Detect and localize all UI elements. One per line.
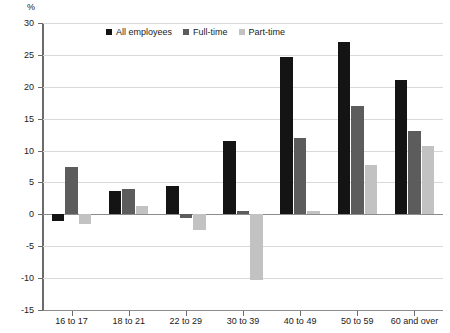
gridline--5: [43, 246, 443, 247]
gridline-0: [43, 214, 443, 215]
x-axis-category-label: 16 to 17: [43, 316, 100, 327]
y-tick-label: 25: [0, 51, 34, 60]
x-axis-category-label: 50 to 59: [329, 316, 386, 327]
y-tick-label: 20: [0, 83, 34, 92]
y-tick-label: 30: [0, 19, 34, 28]
x-axis-category-label: 22 to 29: [157, 316, 214, 327]
bar: [338, 42, 351, 214]
gridline-20: [43, 87, 443, 88]
gridline-30: [43, 23, 443, 24]
y-tick-label: 15: [0, 115, 34, 124]
bar: [294, 138, 307, 215]
bar: [237, 211, 250, 214]
y-tick-label: 0: [0, 210, 34, 219]
x-axis-category-label: 60 and over: [386, 316, 443, 327]
gridline-10: [43, 151, 443, 152]
x-axis-category-label: 18 to 21: [100, 316, 157, 327]
bar: [351, 106, 364, 214]
bar: [52, 214, 65, 220]
bar: [395, 80, 408, 214]
bar: [280, 57, 293, 215]
bar: [65, 167, 78, 215]
gridline-5: [43, 182, 443, 183]
bar: [180, 214, 193, 217]
x-axis-category-label: 30 to 39: [214, 316, 271, 327]
bar: [193, 214, 206, 230]
bar: [136, 206, 149, 214]
plot-area: [43, 23, 443, 310]
bar: [223, 141, 236, 214]
bar: [166, 186, 179, 214]
bar: [365, 165, 378, 215]
bar: [109, 191, 122, 215]
bar: [79, 214, 92, 224]
bar: [408, 131, 421, 214]
bar: [422, 146, 435, 214]
bar: [307, 211, 320, 215]
y-tick-label: 10: [0, 147, 34, 156]
gridline-25: [43, 55, 443, 56]
bar: [250, 214, 263, 280]
y-tick-label: 5: [0, 178, 34, 187]
y-tick-label: -10: [0, 274, 34, 283]
gridline-15: [43, 119, 443, 120]
y-tick-label: -5: [0, 242, 34, 251]
y-axis-unit-label: %: [27, 2, 35, 12]
bar-chart: % All employeesFull-timePart-time 302520…: [0, 0, 450, 333]
bar: [122, 189, 135, 215]
x-axis-category-label: 40 to 49: [272, 316, 329, 327]
gridline--10: [43, 278, 443, 279]
y-tick-label: -15: [0, 306, 34, 315]
